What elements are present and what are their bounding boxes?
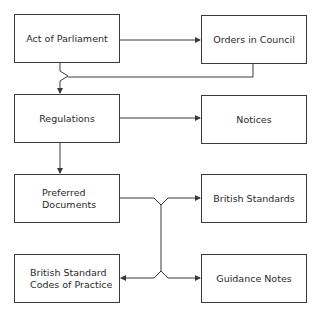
edge-preferred-bs bbox=[119, 198, 200, 205]
edge-preferred-bscp bbox=[121, 271, 161, 278]
node-act-of-parliament: Act of Parliament bbox=[14, 14, 120, 63]
edge-preferred-guidance bbox=[161, 271, 200, 278]
node-label: Orders in Council bbox=[213, 34, 295, 46]
edge-orders-regulations bbox=[68, 63, 253, 77]
node-british-standard-codes-of-practice: British Standard Codes of Practice bbox=[14, 254, 120, 303]
node-label: Guidance Notes bbox=[216, 273, 291, 285]
node-label: Act of Parliament bbox=[26, 33, 107, 45]
node-label: British Standard Codes of Practice bbox=[30, 267, 112, 291]
node-notices: Notices bbox=[201, 95, 307, 144]
node-label: Notices bbox=[236, 114, 271, 126]
node-preferred-documents: Preferred Documents bbox=[14, 174, 120, 223]
node-british-standards: British Standards bbox=[201, 174, 307, 223]
edge-act-regulations bbox=[60, 62, 68, 93]
node-orders-in-council: Orders in Council bbox=[201, 15, 307, 64]
node-label: British Standards bbox=[213, 193, 295, 205]
node-guidance-notes: Guidance Notes bbox=[201, 254, 307, 303]
node-label: Preferred Documents bbox=[42, 187, 96, 211]
node-label: Regulations bbox=[39, 113, 95, 125]
node-regulations: Regulations bbox=[14, 94, 120, 143]
